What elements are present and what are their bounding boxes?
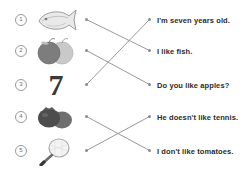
connector-dot-left[interactable] [85, 149, 88, 152]
connector-dot-left[interactable] [85, 18, 88, 21]
connector-dot-right[interactable] [148, 18, 151, 21]
apples-icon [33, 36, 79, 66]
connector-dot-right[interactable] [148, 49, 151, 52]
tomatoes-icon [33, 102, 79, 132]
connector-dot-right[interactable] [148, 83, 151, 86]
item-number-badge: 1 [15, 14, 27, 26]
sentence-option[interactable]: He doesn't like tennis. [157, 113, 238, 122]
connector-dot-left[interactable] [85, 115, 88, 118]
connector-dot-right[interactable] [148, 115, 151, 118]
connector-dot-right[interactable] [148, 149, 151, 152]
connector-dot-left[interactable] [85, 49, 88, 52]
worksheet-row: 2 [0, 34, 240, 67]
sentence-option[interactable]: I like fish. [157, 47, 192, 56]
sentence-option[interactable]: Do you like apples? [157, 81, 229, 90]
sentence-option[interactable]: I'm seven years old. [157, 16, 230, 25]
item-number-badge: 2 [15, 45, 27, 57]
item-number-badge: 5 [15, 145, 27, 157]
item-number-badge: 4 [15, 111, 27, 123]
matching-worksheet: 1 2 3 7 4 [0, 0, 240, 175]
connector-dot-left[interactable] [85, 83, 88, 86]
number-seven-glyph: 7 [33, 70, 79, 100]
sentence-option[interactable]: I don't like tomatoes. [157, 147, 234, 156]
tennis-racket-icon [33, 136, 79, 166]
fish-icon [33, 5, 79, 35]
item-number-badge: 3 [15, 79, 27, 91]
